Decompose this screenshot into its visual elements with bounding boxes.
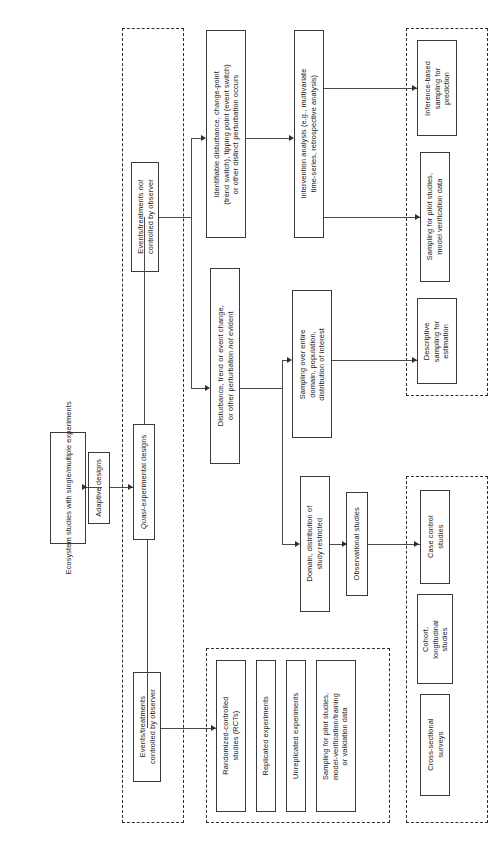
node-identifiable-disturbance-text: Identifiable disturbance, change-point (…	[212, 64, 241, 204]
node-randomized-controlled-studies: Randomized-controlled studies (RCTs)	[216, 660, 246, 812]
arrowhead-intervention-to-inference	[412, 85, 417, 91]
node-identifiable-disturbance: Identifiable disturbance, change-point (…	[206, 30, 246, 238]
connector-intervention-to-pilot-model	[324, 217, 420, 218]
arrowhead-identifiable-to-intervention	[289, 135, 294, 141]
arrowhead-to-disturbance-not-evident	[205, 385, 210, 391]
node-replicated-experiments-text: Replicated experiments	[261, 696, 271, 775]
node-case-control-studies: Case control studies	[420, 490, 450, 584]
connector-events-not-controlled-stem	[159, 217, 191, 218]
connector-quasi-branch-vertical	[144, 217, 145, 425]
node-quasi-experimental-designs: Quasi-experimental designs	[133, 424, 155, 540]
connector-events-controlled-to-experiments	[161, 728, 216, 729]
arrowhead-events-controlled-to-experiments	[211, 725, 216, 731]
node-inference-based-sampling-text: Inference-based sampling for prediction	[423, 61, 452, 116]
connector-observational-to-case-control	[368, 544, 420, 545]
node-pilot-training-validation-text: Sampling for pilot studies, model-verifi…	[322, 692, 351, 779]
node-intervention-analysis: Intervention analysis (e.g., multivariat…	[294, 30, 324, 238]
node-descriptive-sampling: Descriptive sampling for estimation	[417, 298, 457, 384]
node-start-text: Ecosystem studies with single/multiple e…	[63, 402, 73, 575]
flowchart-canvas: Ecosystem studies with single/multiple e…	[0, 0, 498, 850]
node-cross-sectional-surveys: Cross-sectional surveys	[420, 694, 450, 796]
node-observational-studies: Observational studies	[346, 492, 368, 596]
node-cohort-longitudinal-studies-text: Cohort, longitudinal studies	[421, 620, 450, 659]
node-domain-restricted: Domain, distribution of study restricted	[300, 476, 330, 612]
node-disturbance-not-evident: Disturbance, trend or event change, or o…	[210, 268, 240, 464]
arrowhead-domain-to-observational	[342, 541, 347, 547]
connector-to-disturbance-not-evident	[191, 388, 206, 389]
node-inference-based-sampling: Inference-based sampling for prediction	[417, 40, 457, 136]
arrowhead-sampling-entire-to-descriptive	[412, 357, 417, 363]
node-unreplicated-experiments-text: Unreplicated experiments	[291, 693, 301, 779]
connector-events-not-controlled-split	[191, 138, 192, 388]
arrowhead-adaptive-to-quasi	[128, 484, 133, 490]
connector-sampling-entire-to-descriptive	[332, 360, 417, 361]
connector-disturbance-stem	[240, 388, 282, 389]
node-pilot-model-verification: Sampling for pilot studies, model verifi…	[420, 152, 450, 282]
node-unreplicated-experiments: Unreplicated experiments	[286, 660, 306, 812]
node-quasi-experimental-designs-text: Quasi-experimental designs	[139, 435, 149, 529]
node-observational-studies-text: Observational studies	[352, 507, 362, 580]
node-replicated-experiments: Replicated experiments	[256, 660, 276, 812]
node-start: Ecosystem studies with single/multiple e…	[50, 432, 86, 544]
node-randomized-controlled-studies-text: Randomized-controlled studies (RCTs)	[221, 697, 240, 775]
node-pilot-model-verification-text: Sampling for pilot studies, model verifi…	[425, 173, 444, 260]
node-intervention-analysis-text: Intervention analysis (e.g., multivariat…	[299, 69, 318, 199]
node-descriptive-sampling-text: Descriptive sampling for estimation	[423, 320, 452, 361]
arrowhead-to-domain-restricted	[295, 541, 300, 547]
connector-quasi-branch-vertical-down	[147, 540, 148, 728]
connector-start-to-adaptive	[86, 487, 102, 488]
node-sampling-entire-domain: Sampling over entire domain, population,…	[292, 290, 332, 438]
node-pilot-training-validation: Sampling for pilot studies, model-verifi…	[316, 660, 356, 812]
connector-identifiable-to-intervention	[246, 138, 290, 139]
arrowhead-to-identifiable	[201, 135, 206, 141]
arrowhead-intervention-to-pilot-model	[415, 214, 420, 220]
node-disturbance-not-evident-text: Disturbance, trend or event change, or o…	[215, 306, 234, 427]
node-sampling-entire-domain-text: Sampling over entire domain, population,…	[298, 328, 327, 401]
node-cohort-longitudinal-studies: Cohort, longitudinal studies	[417, 594, 453, 684]
connector-disturbance-split	[282, 360, 283, 544]
arrowhead-start-to-adaptive	[82, 484, 87, 490]
node-domain-restricted-text: Domain, distribution of study restricted	[305, 506, 324, 582]
connector-intervention-to-inference	[324, 88, 417, 89]
node-cross-sectional-surveys-text: Cross-sectional surveys	[425, 719, 444, 771]
node-case-control-studies-text: Case control studies	[425, 516, 444, 559]
arrowhead-to-sampling-entire	[287, 357, 292, 363]
quasi-italic: Quasi	[139, 509, 148, 529]
arrowhead-observational-to-case-control	[414, 541, 419, 547]
